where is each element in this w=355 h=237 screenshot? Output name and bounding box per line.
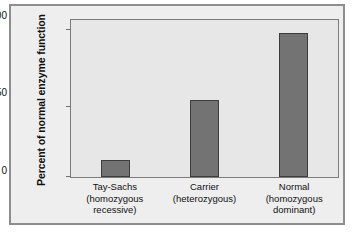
x-label-line-2: (homozygous — [249, 193, 339, 205]
figure-border: Percent of normal enzyme function 100 50… — [9, 4, 345, 225]
x-label-line-3: recessive) — [70, 204, 160, 216]
x-label-line-1: Normal — [249, 181, 339, 193]
x-label-line-3: dominant) — [249, 204, 339, 216]
x-label-line-2: (heterozygous) — [160, 193, 250, 205]
x-label-tay-sachs: Tay-Sachs (homozygous recessive) — [70, 181, 160, 229]
x-label-normal: Normal (homozygous dominant) — [249, 181, 339, 229]
y-tick-label-0: 0 — [0, 165, 7, 176]
figure-container: Percent of normal enzyme function 100 50… — [0, 0, 355, 237]
plot-area — [71, 20, 338, 177]
bar-carrier — [190, 100, 219, 177]
x-label-line-1: Carrier — [160, 181, 250, 193]
bar-tay-sachs — [101, 160, 130, 177]
y-tick-label-50: 50 — [0, 87, 7, 98]
plot-frame — [70, 19, 339, 178]
x-label-line-2: (homozygous — [70, 193, 160, 205]
x-axis-labels: Tay-Sachs (homozygous recessive) Carrier… — [70, 181, 339, 229]
y-tick-label-100: 100 — [0, 10, 7, 21]
y-axis-title: Percent of normal enzyme function — [35, 10, 47, 190]
x-label-line-1: Tay-Sachs — [70, 181, 160, 193]
x-label-carrier: Carrier (heterozygous) — [160, 181, 250, 229]
bar-normal — [279, 33, 308, 177]
